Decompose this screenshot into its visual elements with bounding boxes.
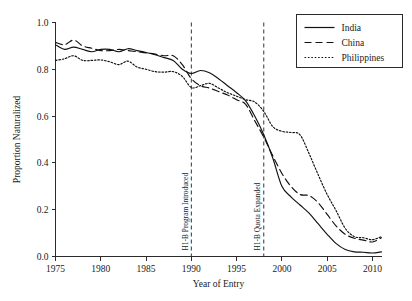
x-tick-label: 1975 xyxy=(46,264,65,274)
y-tick-label: 0.0 xyxy=(37,252,49,262)
x-tick-label: 2010 xyxy=(363,264,382,274)
y-tick-label: 0.2 xyxy=(37,205,49,215)
annotation-label: H1-B Program Introduced xyxy=(181,173,190,251)
x-tick-label: 2005 xyxy=(318,264,337,274)
y-axis-title: Proportion Naturalized xyxy=(12,96,22,184)
x-axis-title: Year of Entry xyxy=(193,279,245,289)
x-tick-label: 2000 xyxy=(272,264,291,274)
y-tick-label: 0.4 xyxy=(37,158,49,168)
line-chart: 0.00.20.40.60.81.0 197519801985199019952… xyxy=(0,0,412,301)
y-tick-label: 0.8 xyxy=(37,65,49,75)
y-tick-label: 1.0 xyxy=(37,18,49,28)
legend-label-china: China xyxy=(342,38,365,48)
annotation-label: H1-B Quota Expanded xyxy=(253,182,262,250)
x-tick-label: 1980 xyxy=(91,264,110,274)
y-tick-label: 0.6 xyxy=(37,112,49,122)
x-tick-label: 1995 xyxy=(227,264,246,274)
chart-legend: IndiaChinaPhilippines xyxy=(297,15,403,68)
legend-label-philippines: Philippines xyxy=(342,53,385,63)
chart-figure: 0.00.20.40.60.81.0 197519801985199019952… xyxy=(0,0,412,301)
x-tick-label: 1990 xyxy=(182,264,201,274)
x-tick-label: 1985 xyxy=(137,264,156,274)
legend-label-india: India xyxy=(342,23,362,33)
